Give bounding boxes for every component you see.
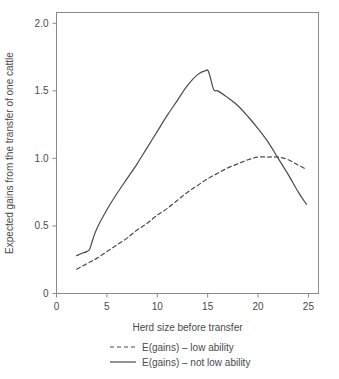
legend-label-not-low-ability: E(gains) – not low ability bbox=[142, 357, 250, 368]
series-line-not-low-ability bbox=[77, 70, 307, 256]
y-tick-label: 1.0 bbox=[35, 153, 49, 164]
y-tick-label: 1.5 bbox=[35, 85, 49, 96]
series-line-low-ability bbox=[77, 157, 307, 269]
y-tick-label: 2.0 bbox=[35, 18, 49, 29]
x-tick-label: 0 bbox=[54, 301, 60, 312]
x-tick-label: 25 bbox=[303, 301, 315, 312]
x-tick-label: 5 bbox=[104, 301, 110, 312]
chart-figure: 051015202500.51.01.52.0Herd size before … bbox=[0, 0, 339, 379]
y-tick-label: 0 bbox=[43, 288, 49, 299]
plot-panel-border bbox=[57, 13, 319, 294]
legend-label-low-ability: E(gains) – low ability bbox=[142, 342, 234, 353]
x-tick-label: 10 bbox=[152, 301, 164, 312]
x-tick-label: 15 bbox=[202, 301, 214, 312]
y-tick-label: 0.5 bbox=[35, 220, 49, 231]
expected-gains-line-chart: 051015202500.51.01.52.0Herd size before … bbox=[0, 0, 339, 379]
x-tick-label: 20 bbox=[252, 301, 264, 312]
y-axis-title: Expected gains from the transfer of one … bbox=[4, 52, 15, 254]
x-axis-title: Herd size before transfer bbox=[132, 322, 243, 333]
